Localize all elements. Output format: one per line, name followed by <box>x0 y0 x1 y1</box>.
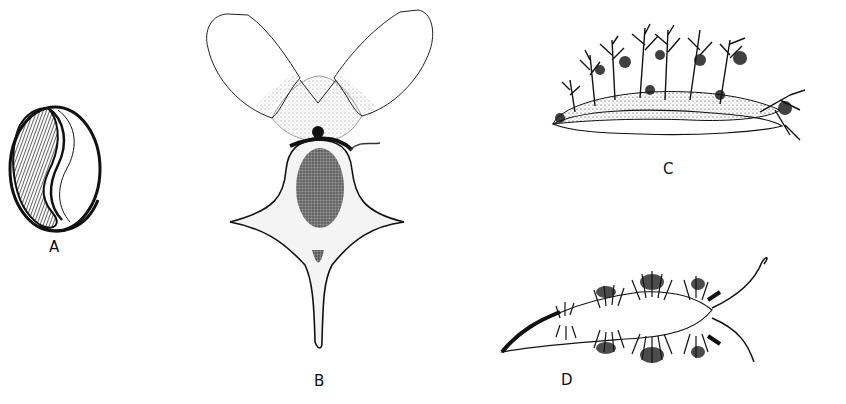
figure-a-shell <box>10 107 100 231</box>
viscera <box>296 148 344 228</box>
figure-d-aeolid <box>502 258 767 363</box>
figure-b-pteropod <box>207 10 433 348</box>
oral-tentacles <box>712 262 762 362</box>
figure-label-b: B <box>314 372 324 390</box>
illustration-plate <box>0 0 846 404</box>
figure-label-d: D <box>561 371 573 389</box>
figure-label-c: C <box>663 160 673 178</box>
figure-label-a: A <box>49 238 59 256</box>
figure-c-nudibranch <box>553 24 805 140</box>
